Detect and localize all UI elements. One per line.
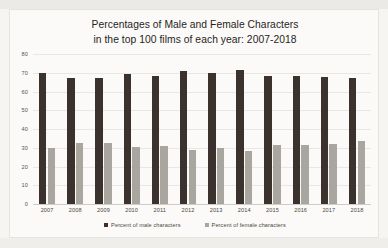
y-axis-tick-70: 70 [22, 70, 28, 76]
bar-female-2016[interactable] [301, 145, 309, 204]
bar-female-2017[interactable] [329, 144, 337, 204]
chart-container: Percentages of Male and Female Character… [9, 9, 379, 238]
y-axis-tick-20: 20 [22, 164, 28, 170]
bar-group-2012 [174, 54, 202, 204]
bar-female-2018[interactable] [358, 141, 366, 204]
bar-male-2014[interactable] [236, 70, 244, 204]
bar-male-2017[interactable] [321, 77, 329, 205]
x-axis-tick-2017: 2017 [315, 207, 343, 213]
scan-edge-top [0, 0, 388, 9]
y-axis: 80706050403020100 [10, 54, 31, 204]
bar-group-2018 [343, 54, 371, 204]
chart-legend: Percent of male charactersPercent of fem… [10, 222, 380, 228]
bar-male-2010[interactable] [124, 74, 132, 204]
x-axis-tick-2009: 2009 [89, 207, 117, 213]
bar-group-2017 [315, 54, 343, 204]
bar-female-2015[interactable] [273, 145, 281, 204]
bar-female-2014[interactable] [245, 151, 253, 204]
chart-title-line-2: in the top 100 films of each year: 2007-… [10, 33, 380, 48]
y-axis-tick-40: 40 [22, 126, 28, 132]
bar-female-2011[interactable] [160, 146, 168, 204]
legend-label-female: Percent of female characters [212, 222, 286, 228]
chart-page: Percentages of Male and Female Character… [0, 0, 388, 248]
bar-male-2013[interactable] [208, 73, 216, 204]
bar-male-2008[interactable] [67, 78, 75, 204]
bar-group-2011 [146, 54, 174, 204]
bar-group-2008 [61, 54, 89, 204]
bar-female-2008[interactable] [76, 143, 84, 204]
bar-group-2007 [33, 54, 61, 204]
bar-male-2015[interactable] [264, 76, 272, 204]
legend-entry-female[interactable]: Percent of female characters [205, 222, 286, 228]
scan-edge-bottom [0, 238, 388, 248]
x-axis-tick-2011: 2011 [146, 207, 174, 213]
y-axis-tick-30: 30 [22, 145, 28, 151]
bar-series-container [33, 54, 371, 204]
legend-swatch-icon-male [104, 223, 108, 227]
x-axis-tick-2016: 2016 [287, 207, 315, 213]
legend-label-male: Percent of male characters [111, 222, 180, 228]
x-axis-tick-2013: 2013 [202, 207, 230, 213]
y-axis-tick-50: 50 [22, 107, 28, 113]
y-axis-tick-0: 0 [25, 201, 28, 207]
bar-group-2014 [230, 54, 258, 204]
x-axis: 2007200820092010201120122013201420152016… [33, 207, 371, 213]
gridline-0 [33, 204, 371, 205]
plot-area [33, 54, 371, 204]
legend-swatch-icon-female [205, 223, 209, 227]
bar-group-2015 [258, 54, 286, 204]
bar-group-2016 [287, 54, 315, 204]
x-axis-tick-2018: 2018 [343, 207, 371, 213]
bar-male-2018[interactable] [349, 78, 357, 204]
bar-male-2016[interactable] [293, 76, 301, 204]
x-axis-tick-2010: 2010 [118, 207, 146, 213]
bar-male-2009[interactable] [95, 78, 103, 204]
legend-entry-male[interactable]: Percent of male characters [104, 222, 180, 228]
bar-female-2009[interactable] [104, 143, 112, 204]
bar-group-2010 [118, 54, 146, 204]
bar-group-2009 [89, 54, 117, 204]
x-axis-tick-2015: 2015 [258, 207, 286, 213]
bar-group-2013 [202, 54, 230, 204]
chart-title: Percentages of Male and Female Character… [10, 18, 380, 47]
bar-female-2010[interactable] [132, 147, 140, 204]
bar-female-2012[interactable] [189, 150, 197, 204]
x-axis-tick-2008: 2008 [61, 207, 89, 213]
x-axis-tick-2007: 2007 [33, 207, 61, 213]
x-axis-tick-2012: 2012 [174, 207, 202, 213]
y-axis-tick-80: 80 [22, 51, 28, 57]
bar-female-2007[interactable] [48, 148, 56, 204]
x-axis-tick-2014: 2014 [230, 207, 258, 213]
bar-male-2011[interactable] [152, 76, 160, 204]
y-axis-tick-60: 60 [22, 89, 28, 95]
chart-title-line-1: Percentages of Male and Female Character… [10, 18, 380, 33]
y-axis-tick-10: 10 [22, 182, 28, 188]
bar-male-2007[interactable] [39, 73, 47, 204]
bar-female-2013[interactable] [217, 148, 225, 204]
bar-male-2012[interactable] [180, 71, 188, 204]
